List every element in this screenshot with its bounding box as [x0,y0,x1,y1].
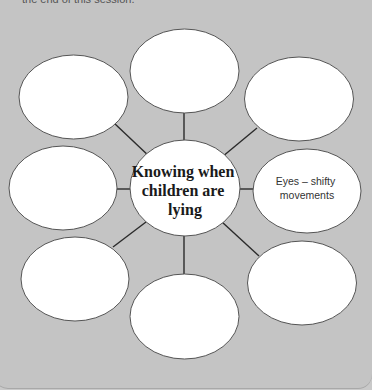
connector-top-left [114,123,151,158]
connector-bottom-right [222,222,259,256]
bubble-bottom-left[interactable] [21,237,129,321]
center-line-2: children are [142,182,225,199]
bubble-right-line-1: Eyes – shifty [276,175,336,187]
bubble-top-right[interactable] [245,57,354,141]
center-line-1: Knowing when [132,163,235,181]
connector-top-right [222,128,257,157]
connector-bottom-left [113,222,146,247]
bubble-top[interactable] [130,29,239,113]
bubble-bottom-right[interactable] [248,241,357,325]
bubble-left[interactable] [9,146,117,230]
bubble-top-left[interactable] [19,55,128,139]
bubble-right-line-2: movements [280,189,334,201]
center-line-3: lying [168,201,202,219]
bubble-bottom[interactable] [130,274,239,359]
